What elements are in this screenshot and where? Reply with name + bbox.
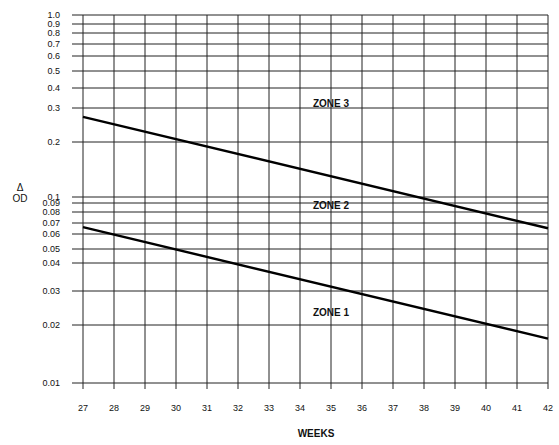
x-tick-label: 36 [357, 403, 367, 413]
x-tick-label: 38 [419, 403, 429, 413]
horizontal-gridlines [72, 15, 548, 383]
y-axis-label-od: OD [13, 193, 28, 204]
x-tick-label: 32 [233, 403, 243, 413]
y-tick-label: 0.8 [47, 28, 60, 38]
y-tick-label: 0.7 [47, 39, 60, 49]
chart: 1.00.90.80.70.60.50.40.30.20.10.090.080.… [0, 0, 559, 445]
x-tick-label: 29 [140, 403, 150, 413]
y-tick-label: 0.6 [47, 51, 60, 61]
x-tick-label: 31 [202, 403, 212, 413]
y-tick-label: 0.02 [42, 320, 60, 330]
y-tick-label: 0.04 [42, 258, 60, 268]
y-tick-label: 0.2 [47, 137, 60, 147]
y-tick-label: 0.01 [42, 378, 60, 388]
y-tick-label: 0.05 [42, 244, 60, 254]
x-axis-tick-labels: 27282930313233343536373839404142 [78, 403, 553, 413]
y-tick-label: 0.5 [47, 66, 60, 76]
y-tick-label: 0.07 [42, 218, 60, 228]
y-tick-label: 0.3 [47, 103, 60, 113]
zone-label-3: ZONE 3 [313, 98, 350, 109]
x-tick-label: 41 [512, 403, 522, 413]
x-tick-label: 28 [109, 403, 119, 413]
lower-boundary-line [83, 227, 548, 338]
x-tick-label: 34 [295, 403, 305, 413]
x-tick-label: 37 [388, 403, 398, 413]
x-axis-title: WEEKS [298, 428, 335, 439]
zone-label-1: ZONE 1 [313, 307, 350, 318]
y-axis-tick-labels: 1.00.90.80.70.60.50.40.30.20.10.090.080.… [42, 10, 60, 388]
data-series [83, 117, 548, 339]
x-tick-label: 35 [326, 403, 336, 413]
zone-label-2: ZONE 2 [313, 200, 350, 211]
y-tick-label: 0.4 [47, 83, 60, 93]
x-tick-label: 39 [450, 403, 460, 413]
y-tick-label: 0.03 [42, 286, 60, 296]
y-tick-label: 0.08 [42, 207, 60, 217]
y-axis-label-delta: Δ [17, 182, 24, 193]
x-tick-label: 33 [264, 403, 274, 413]
x-tick-label: 27 [78, 403, 88, 413]
x-tick-label: 40 [481, 403, 491, 413]
y-tick-label: 0.06 [42, 229, 60, 239]
x-tick-label: 42 [543, 403, 553, 413]
x-tick-label: 30 [171, 403, 181, 413]
